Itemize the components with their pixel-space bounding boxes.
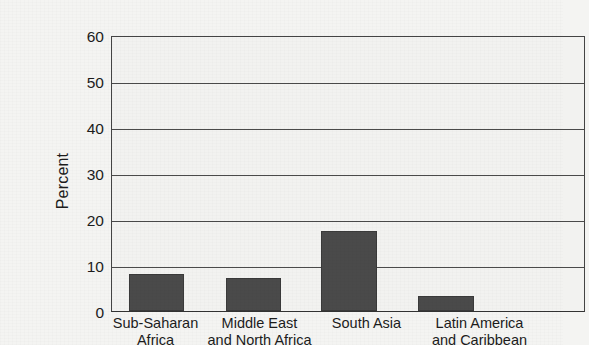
x-axis-tick-labels: Sub-Saharan Africa Middle East and North… (111, 315, 585, 345)
x-tick-line2: and North Africa (197, 332, 322, 345)
y-tick-label-50: 50 (70, 75, 104, 91)
x-tick-line1: Middle East (222, 315, 298, 331)
bar-sub-saharan-africa[interactable] (129, 274, 184, 311)
x-tick-line2: Africa (106, 332, 205, 345)
bar-chart-figure: Percent 60 50 40 30 20 10 0 Sub-Saharan … (40, 16, 589, 345)
x-tick-line1: South Asia (332, 315, 401, 331)
x-tick-label-latin-america-and-caribbean: Latin America and Caribbean (406, 315, 553, 345)
bar-middle-east-and-north-africa[interactable] (226, 278, 281, 311)
y-tick-label-10: 10 (70, 259, 104, 275)
bar-latin-america-and-caribbean[interactable] (418, 296, 474, 311)
plot-area (111, 36, 585, 312)
y-tick-label-0: 0 (70, 305, 104, 321)
y-tick-label-40: 40 (70, 121, 104, 137)
y-tick-label-20: 20 (70, 213, 104, 229)
bar-south-asia[interactable] (321, 231, 377, 311)
x-tick-line2: and Caribbean (406, 332, 553, 345)
y-axis-tick-labels: 60 50 40 30 20 10 0 (70, 16, 104, 345)
y-tick-label-30: 30 (70, 167, 104, 183)
x-tick-label-middle-east-and-north-africa: Middle East and North Africa (197, 315, 322, 345)
bars-layer (112, 37, 584, 311)
x-tick-label-sub-saharan-africa: Sub-Saharan Africa (106, 315, 205, 345)
x-tick-line1: Sub-Saharan (113, 315, 198, 331)
x-tick-line1: Latin America (436, 315, 524, 331)
y-tick-label-60: 60 (70, 29, 104, 45)
